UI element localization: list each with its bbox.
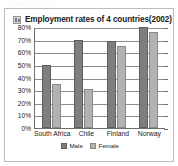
- chart-legend: MaleFemale: [5, 143, 175, 149]
- scan-artifact-text: · ·· ····· ·· ··· ·· ·: [4, 0, 136, 7]
- plot-area: [34, 28, 165, 129]
- bar-group: [68, 28, 101, 128]
- chart-title-row: Employment rates of 4 countries(2002): [13, 15, 172, 24]
- y-axis-tick-label: 0%: [21, 126, 31, 133]
- y-axis-tick-label: 20%: [18, 100, 31, 107]
- bar-male-south-africa: [42, 65, 51, 128]
- bar-group: [35, 28, 68, 128]
- bar-male-norway: [139, 27, 148, 128]
- bar-female-finland: [117, 46, 126, 128]
- bar-group: [133, 28, 166, 128]
- legend-swatch-male: [61, 143, 67, 149]
- y-axis-tick-label: 30%: [18, 88, 31, 95]
- x-axis-tick-label: Finland: [102, 131, 133, 138]
- axis-tick: [164, 129, 168, 130]
- x-axis-tick-label: South Africa: [34, 131, 71, 138]
- bar-male-finland: [107, 41, 116, 128]
- legend-item-female: Female: [90, 143, 119, 149]
- chart-container: Employment rates of 4 countries(2002) 0%…: [4, 8, 174, 162]
- y-axis-tick-label: 80%: [18, 25, 31, 32]
- y-axis-tick-label: 10%: [18, 113, 31, 120]
- y-axis-tick-label: 40%: [18, 75, 31, 82]
- legend-swatch-female: [90, 143, 96, 149]
- bar-female-south-africa: [52, 84, 61, 128]
- page-title: Employment rates of 4 countries(2002): [25, 15, 172, 24]
- legend-label: Female: [98, 143, 119, 149]
- y-axis-tick-label: 60%: [18, 50, 31, 57]
- x-axis-tick-label: Norway: [134, 131, 165, 138]
- bar-female-norway: [149, 32, 158, 128]
- plot-wrapper: 0%10%20%30%40%50%60%70%80% South AfricaC…: [5, 28, 173, 143]
- bar-group: [100, 28, 133, 128]
- y-axis-tick-label: 50%: [18, 63, 31, 70]
- bar-female-chile: [84, 89, 93, 128]
- legend-label: Male: [69, 143, 82, 149]
- y-axis-tick-label: 70%: [18, 37, 31, 44]
- x-axis: South AfricaChileFinlandNorway: [34, 131, 165, 138]
- bar-male-chile: [74, 40, 83, 128]
- y-axis: 0%10%20%30%40%50%60%70%80%: [5, 28, 32, 129]
- bars-layer: [35, 28, 165, 128]
- x-axis-tick-label: Chile: [71, 131, 102, 138]
- legend-item-male: Male: [61, 143, 83, 149]
- chart-thumbnail-icon: [13, 16, 21, 24]
